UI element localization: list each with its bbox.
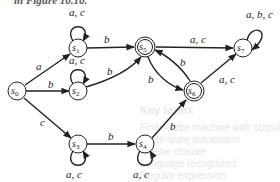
label-s0-s2: b xyxy=(48,78,54,90)
label-s4-loop: a, c xyxy=(133,168,149,180)
edge-s0-s3 xyxy=(24,98,71,138)
edge-s5-s7 xyxy=(156,47,233,48)
label-s6-s7: a, c xyxy=(219,73,235,85)
label-s1-s5: b xyxy=(104,33,110,45)
label-s3-s4: b xyxy=(108,130,114,142)
label-s4-s6: b xyxy=(170,120,176,132)
label-s7-loop: a, b, c xyxy=(246,8,273,20)
label-s5-s6: b xyxy=(148,73,154,85)
label-s2-s5: b xyxy=(107,65,113,77)
edge-s4-s6 xyxy=(152,100,186,138)
label-s1-loop: a, c xyxy=(69,6,85,18)
label-s5-s7: a, c xyxy=(190,33,206,45)
label-s6-s5: b xyxy=(180,56,186,68)
label-s0-s1: a xyxy=(36,60,42,72)
label-s0-s3: c xyxy=(40,116,45,128)
edge-s2-s5 xyxy=(86,57,141,87)
label-s2-loop: a, c xyxy=(69,54,85,66)
edge-s1-s5 xyxy=(87,47,134,48)
fsa-diagram: s0 s1 s2 s3 s4 s5 s6 s7 a b c a, c b a, … xyxy=(0,0,280,182)
label-s3-loop: a, c xyxy=(66,168,82,180)
